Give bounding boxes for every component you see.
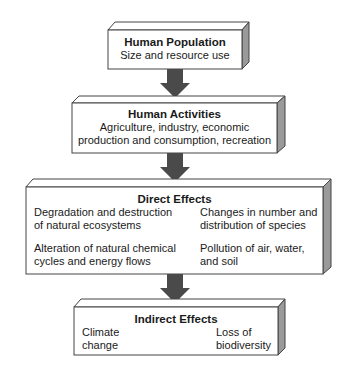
item-line: Changes in number and [200, 206, 317, 219]
item-line: Loss of [216, 326, 271, 339]
item-line: biodiversity [216, 339, 271, 352]
box-line: Agriculture, industry, economic [72, 121, 277, 134]
item-line: Degradation and destruction [34, 206, 172, 219]
item-line: Pollution of air, water, [200, 242, 305, 255]
box-title: Indirect Effects [74, 313, 278, 326]
arrow-down-icon [160, 69, 190, 98]
box-line: production and consumption, recreation [72, 134, 277, 147]
direct-effect-item: Alteration of natural chemical cycles an… [34, 242, 176, 268]
direct-effect-item: Pollution of air, water, and soil [200, 242, 305, 268]
indirect-effect-item: Loss of biodiversity [216, 326, 271, 352]
direct-effect-item: Degradation and destruction of natural e… [34, 206, 172, 232]
indirect-effect-item: Climate change [82, 326, 119, 352]
direct-effect-item: Changes in number and distribution of sp… [200, 206, 317, 232]
human-activities-text: Human Activities Agriculture, industry, … [72, 108, 277, 147]
box-title: Direct Effects [26, 193, 323, 206]
box-title: Human Activities [72, 108, 277, 121]
item-line: distribution of species [200, 219, 317, 232]
item-line: of natural ecosystems [34, 219, 172, 232]
item-line: Alteration of natural chemical [34, 242, 176, 255]
human-population-text: Human Population Size and resource use [108, 36, 242, 62]
box-line: Size and resource use [108, 49, 242, 62]
item-line: cycles and energy flows [34, 255, 176, 268]
direct-effects-title-wrap: Direct Effects [26, 193, 323, 206]
arrow-down-icon [160, 153, 190, 182]
item-line: change [82, 339, 119, 352]
indirect-effects-title-wrap: Indirect Effects [74, 313, 278, 326]
item-line: and soil [200, 255, 305, 268]
box-title: Human Population [108, 36, 242, 49]
item-line: Climate [82, 326, 119, 339]
